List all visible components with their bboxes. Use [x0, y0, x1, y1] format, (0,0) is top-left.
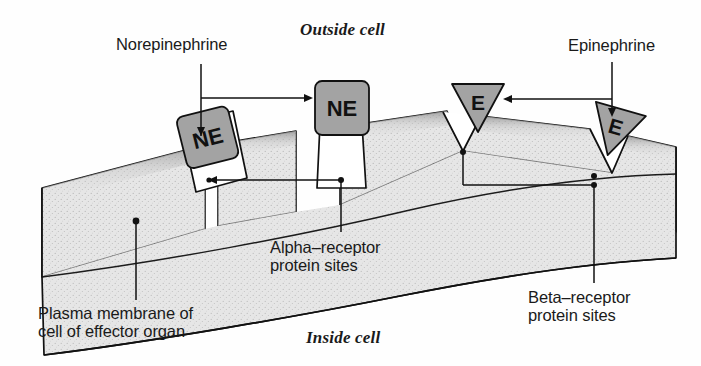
label-norepinephrine: Norepinephrine: [116, 35, 227, 53]
label-beta-receptor-line2: protein sites: [528, 306, 630, 324]
label-beta-receptor: Beta–receptor protein sites: [528, 288, 630, 325]
arrowhead-e-1: [503, 95, 512, 103]
label-alpha-receptor: Alpha–receptor protein sites: [270, 238, 381, 275]
ne-label-2: NE: [327, 96, 358, 121]
leader-dot-beta-2: [591, 182, 597, 188]
leader-dot-plasma-membrane: [133, 218, 140, 225]
label-alpha-receptor-line2: protein sites: [270, 256, 381, 274]
label-inside-cell: Inside cell: [306, 328, 380, 347]
leader-dot-alpha-2: [338, 177, 344, 183]
label-epinephrine: Epinephrine: [568, 36, 655, 54]
label-plasma-membrane-line1: Plasma membrane of: [38, 304, 193, 322]
leader-dot-beta-1: [460, 149, 466, 155]
label-plasma-membrane-line2: cell of effector organ: [38, 322, 193, 340]
figure-canvas: NE NE E E: [0, 0, 701, 366]
alpha-receptor-site-2[interactable]: NE: [315, 81, 369, 188]
label-beta-receptor-line1: Beta–receptor: [528, 288, 630, 306]
molecule-ne-1[interactable]: NE: [175, 105, 239, 169]
e-label-1: E: [471, 91, 485, 114]
arrowhead-ne-2: [304, 94, 313, 102]
label-outside-cell: Outside cell: [300, 20, 385, 39]
molecule-ne-2[interactable]: NE: [315, 81, 369, 135]
label-plasma-membrane: Plasma membrane of cell of effector orga…: [38, 304, 193, 341]
leader-dot-beta-2b: [591, 173, 597, 179]
leader-dot-alpha-1: [206, 177, 211, 182]
label-alpha-receptor-line1: Alpha–receptor: [270, 238, 381, 256]
